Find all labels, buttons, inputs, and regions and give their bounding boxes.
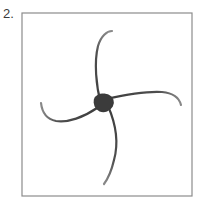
arm-bottom xyxy=(104,106,116,184)
arm-top xyxy=(96,31,112,104)
arm-left xyxy=(41,103,97,121)
arm-right xyxy=(106,92,181,105)
figure-panel: 2. xyxy=(0,0,205,205)
pinwheel-drawing-canvas xyxy=(0,0,205,205)
